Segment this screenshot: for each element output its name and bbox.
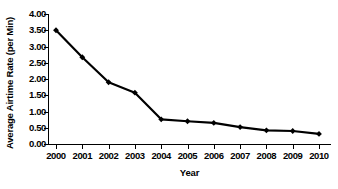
y-axis-tick-label: 0.00 — [14, 139, 46, 149]
y-axis-tick-label: 2.00 — [14, 74, 46, 84]
x-axis-tick-mark — [135, 145, 136, 149]
y-axis-tick-mark — [44, 14, 48, 15]
x-axis-tick-mark — [82, 145, 83, 149]
data-point-marker — [211, 120, 217, 126]
y-axis-tick-label: 2.50 — [14, 58, 46, 68]
x-axis-title: Year — [48, 167, 331, 179]
x-axis-tick-labels: 2000200120022003200420052006200720082009… — [0, 150, 338, 164]
y-axis-tick-mark — [44, 144, 48, 145]
data-point-marker — [316, 131, 322, 137]
y-axis-tick-label: 1.50 — [14, 90, 46, 100]
data-point-marker — [290, 128, 296, 134]
x-axis-tick-mark — [56, 145, 57, 149]
chart-figure: Average Airtime Rate (per Min) 0.000.501… — [0, 0, 338, 189]
y-axis-tick-mark — [44, 79, 48, 80]
x-axis-tick-mark — [188, 145, 189, 149]
x-axis-tick-label: 2010 — [299, 150, 338, 162]
x-axis-tick-mark — [214, 145, 215, 149]
x-axis-tick-mark — [161, 145, 162, 149]
x-axis-tick-mark — [293, 145, 294, 149]
y-axis-tick-mark — [44, 63, 48, 64]
y-axis-tick-mark — [44, 112, 48, 113]
y-axis-tick-mark — [44, 95, 48, 96]
data-point-marker — [185, 118, 191, 124]
plot-area — [48, 14, 331, 144]
y-axis-tick-mark — [44, 30, 48, 31]
data-series-line — [48, 14, 331, 145]
data-point-marker — [237, 124, 243, 130]
x-axis-tick-mark — [109, 145, 110, 149]
y-axis-tick-label: 3.50 — [14, 25, 46, 35]
y-axis-tick-label: 3.00 — [14, 42, 46, 52]
data-point-marker — [264, 127, 270, 133]
y-axis-tick-label: 1.00 — [14, 107, 46, 117]
x-axis-tick-mark — [266, 145, 267, 149]
x-axis-tick-mark — [319, 145, 320, 149]
x-axis-tick-mark — [240, 145, 241, 149]
y-axis-tick-mark — [44, 47, 48, 48]
y-axis-tick-label: 4.00 — [14, 9, 46, 19]
y-axis-tick-mark — [44, 128, 48, 129]
y-axis-tick-label: 0.50 — [14, 123, 46, 133]
